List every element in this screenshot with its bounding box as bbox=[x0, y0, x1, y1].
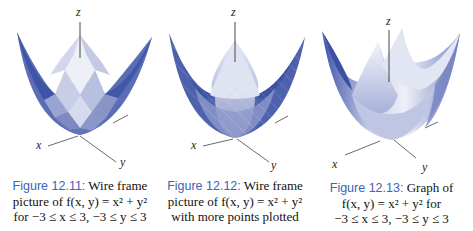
paraboloid-smooth-surface bbox=[310, 0, 473, 170]
caption-line-2: picture of f(x, y) = x² + y² bbox=[13, 194, 147, 209]
z-axis-label: z bbox=[386, 14, 391, 29]
caption-line-2: f(x, y) = x² + y² for bbox=[342, 196, 441, 211]
y-axis-label: y bbox=[271, 158, 276, 173]
figure-caption: Figure 12.12: Wire frame picture of f(x,… bbox=[155, 178, 315, 224]
figure-label: Figure 12.12: bbox=[167, 179, 241, 193]
paraboloid-wireframe-fine bbox=[155, 0, 315, 170]
x-axis-label: x bbox=[332, 157, 337, 172]
figure-label: Figure 12.13: bbox=[330, 181, 404, 195]
z-axis-label: z bbox=[231, 5, 236, 20]
x-axis-label: x bbox=[36, 138, 41, 153]
figure-12-11: z x y Figure 12.11: Wire frame picture o… bbox=[0, 0, 160, 231]
caption-line-1: Wire frame bbox=[241, 178, 303, 193]
caption-line-3: for −3 ≤ x ≤ 3, −3 ≤ y ≤ 3 bbox=[13, 209, 146, 224]
figure-12-13: z x y Figure 12.13: Graph of f(x, y) = x… bbox=[310, 0, 473, 231]
caption-line-1: Graph of bbox=[403, 180, 453, 195]
caption-line-3: −3 ≤ x ≤ 3, −3 ≤ y ≤ 3 bbox=[334, 211, 449, 226]
y-axis-label: y bbox=[422, 160, 427, 175]
z-axis-label: z bbox=[76, 5, 81, 20]
caption-line-1: Wire frame bbox=[85, 178, 147, 193]
caption-line-2: picture of f(x, y) = x² + y² bbox=[168, 194, 302, 209]
x-axis-label: x bbox=[191, 138, 196, 153]
paraboloid-wireframe-coarse bbox=[0, 0, 160, 170]
caption-line-3: with more points plotted bbox=[171, 209, 298, 224]
figure-label: Figure 12.11: bbox=[13, 179, 86, 193]
figure-caption: Figure 12.13: Graph of f(x, y) = x² + y²… bbox=[310, 180, 473, 226]
figure-12-12: z x y Figure 12.12: Wire frame picture o… bbox=[155, 0, 315, 231]
figure-caption: Figure 12.11: Wire frame picture of f(x,… bbox=[0, 178, 160, 224]
y-axis-label: y bbox=[120, 155, 125, 170]
